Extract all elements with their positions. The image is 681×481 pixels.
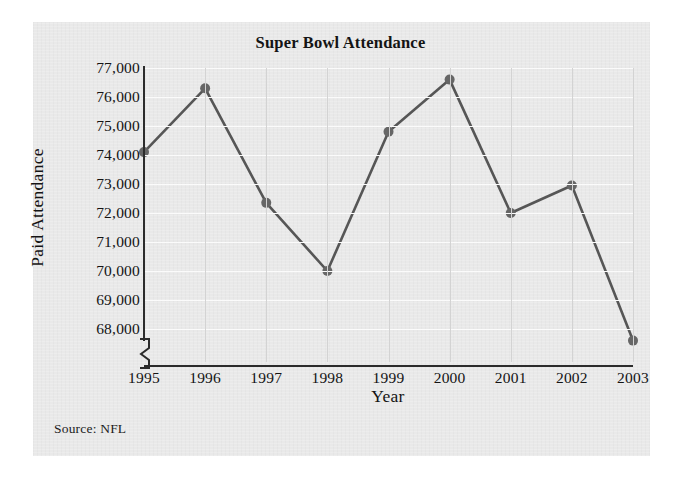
x-axis-line: [144, 365, 633, 367]
axis-break-icon: [138, 337, 162, 369]
source-note: Source: NFL: [54, 421, 126, 437]
y-axis-line: [143, 66, 145, 341]
gridline-vertical: [327, 68, 328, 362]
gridline-vertical: [205, 68, 206, 362]
x-tick-label: 2001: [476, 369, 546, 387]
y-tick-label: 69,000: [48, 291, 140, 309]
plot-area: [144, 68, 633, 362]
x-tick-label: 1999: [354, 369, 424, 387]
y-axis-tick-labels: 77,00076,00075,00074,00073,00072,00071,0…: [40, 68, 140, 362]
x-tick-label: 1995: [109, 369, 179, 387]
y-tick-label: 77,000: [48, 59, 140, 77]
y-tick-label: 70,000: [48, 262, 140, 280]
y-tick-label: 72,000: [48, 204, 140, 222]
chart-page: Super Bowl Attendance Paid Attendance 77…: [0, 0, 681, 481]
y-tick-label: 74,000: [48, 146, 140, 164]
gridline-vertical: [633, 68, 634, 362]
y-tick-label: 76,000: [48, 88, 140, 106]
x-tick-label: 2002: [537, 369, 607, 387]
gridline-vertical: [266, 68, 267, 362]
y-tick-label: 75,000: [48, 117, 140, 135]
x-tick-label: 2003: [598, 369, 668, 387]
page-title: Super Bowl Attendance: [0, 33, 681, 53]
gridline-vertical: [450, 68, 451, 362]
x-axis-label: Year: [143, 386, 633, 407]
gridline-vertical: [511, 68, 512, 362]
y-tick-label: 71,000: [48, 233, 140, 251]
y-tick-label: 73,000: [48, 175, 140, 193]
x-tick-label: 1998: [292, 369, 362, 387]
x-tick-label: 2000: [415, 369, 485, 387]
gridline-vertical: [572, 68, 573, 362]
x-tick-label: 1996: [170, 369, 240, 387]
gridline-vertical: [389, 68, 390, 362]
y-tick-label: 68,000: [48, 320, 140, 338]
x-tick-label: 1997: [231, 369, 301, 387]
